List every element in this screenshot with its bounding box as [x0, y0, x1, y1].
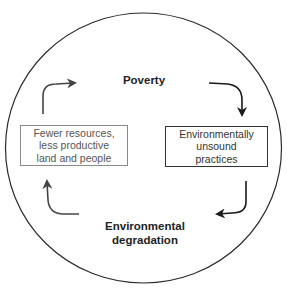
- node-poverty: Poverty: [108, 73, 180, 87]
- node-fewer-resources: Fewer resources, less productive land an…: [20, 125, 128, 166]
- node-unsound-practices-label: Environmentally unsound practices: [179, 128, 254, 166]
- node-environmental-degradation-label: Environmental degradation: [90, 219, 200, 247]
- node-poverty-label: Poverty: [123, 74, 165, 86]
- arrow-fewer-to-poverty: [43, 83, 74, 114]
- node-unsound-practices: Environmentally unsound practices: [165, 126, 268, 167]
- node-fewer-resources-label: Fewer resources, less productive land an…: [33, 127, 114, 165]
- node-environmental-degradation: Environmental degradation: [90, 205, 200, 261]
- arrow-unsound-to-degradation: [218, 181, 246, 214]
- arrow-poverty-to-unsound: [209, 83, 242, 114]
- arrow-degradation-to-fewer: [47, 182, 79, 214]
